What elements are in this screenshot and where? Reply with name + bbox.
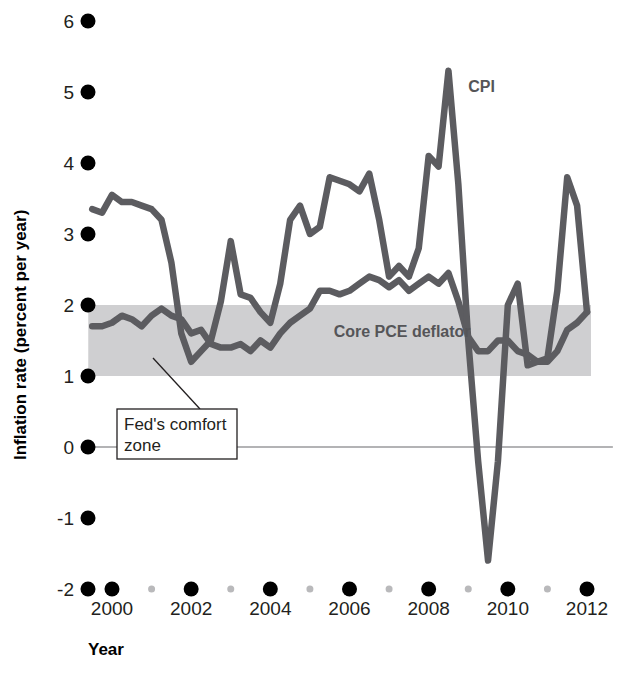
x-tick-dot-major — [263, 582, 278, 597]
y-tick-label: 5 — [63, 82, 74, 103]
x-axis-major-tick-dots — [105, 582, 595, 597]
x-tick-dot-major — [342, 582, 357, 597]
inflation-rate-chart: 6543210-1-2 2000200220042006200820102012… — [0, 0, 639, 675]
y-tick-label: 4 — [63, 153, 74, 174]
y-tick-dot — [81, 156, 96, 171]
y-tick-dot — [81, 85, 96, 100]
x-axis-tick-labels: 2000200220042006200820102012 — [91, 598, 608, 619]
y-tick-dot — [81, 440, 96, 455]
x-tick-dot-major — [580, 582, 595, 597]
y-axis-title: Inflation rate (percent per year) — [11, 210, 30, 460]
y-tick-dot — [81, 582, 96, 597]
x-tick-dot-minor — [544, 586, 551, 593]
x-tick-label: 2002 — [170, 598, 212, 619]
x-tick-dot-major — [184, 582, 199, 597]
y-tick-label: 0 — [63, 437, 74, 458]
x-axis-title: Year — [88, 640, 124, 659]
x-tick-label: 2012 — [566, 598, 608, 619]
x-tick-label: 2008 — [408, 598, 450, 619]
callout-line-1: Fed's comfort — [124, 415, 227, 434]
chart-canvas: 6543210-1-2 2000200220042006200820102012… — [0, 0, 639, 675]
x-tick-dot-minor — [465, 586, 472, 593]
x-tick-dot-minor — [227, 586, 234, 593]
y-tick-dot — [81, 511, 96, 526]
cpi-series-label: CPI — [468, 78, 495, 95]
x-tick-label: 2010 — [487, 598, 529, 619]
y-tick-label: -2 — [57, 579, 74, 600]
y-tick-dot — [81, 227, 96, 242]
x-tick-label: 2000 — [91, 598, 133, 619]
y-tick-dot — [81, 14, 96, 29]
x-tick-dot-minor — [386, 586, 393, 593]
y-tick-dot — [81, 298, 96, 313]
core-pce-series-label: Core PCE deflator — [334, 323, 471, 340]
x-tick-dot-minor — [148, 586, 155, 593]
fed-comfort-zone-band — [88, 305, 591, 376]
x-tick-label: 2006 — [328, 598, 370, 619]
callout-line-2: zone — [124, 436, 161, 455]
y-axis-tick-labels: 6543210-1-2 — [57, 11, 74, 600]
x-tick-dot-minor — [306, 586, 313, 593]
y-tick-label: 3 — [63, 224, 74, 245]
x-tick-dot-major — [421, 582, 436, 597]
y-tick-label: -1 — [57, 508, 74, 529]
y-tick-label: 2 — [63, 295, 74, 316]
x-tick-label: 2004 — [249, 598, 292, 619]
y-tick-label: 1 — [63, 366, 74, 387]
x-tick-dot-major — [500, 582, 515, 597]
y-axis-tick-dots — [81, 14, 96, 597]
y-tick-dot — [81, 369, 96, 384]
y-tick-label: 6 — [63, 11, 74, 32]
x-tick-dot-major — [105, 582, 120, 597]
